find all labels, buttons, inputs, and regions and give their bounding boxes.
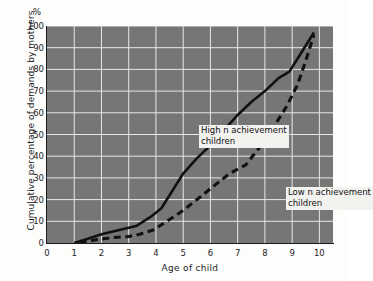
x-axis-line (46, 243, 334, 244)
y-tick-label: 40 (4, 151, 44, 161)
x-tick-label: 4 (144, 248, 168, 258)
x-tick-label: 8 (253, 248, 277, 258)
y-axis-tick-labels: 0102030405060708090100 (0, 0, 44, 281)
annotation-low-n-line1: Low n achievement (288, 187, 371, 197)
x-tick-label: 9 (280, 248, 304, 258)
x-tick-label: 10 (307, 248, 331, 258)
annotation-high-n-line1: High n achievement (201, 125, 287, 135)
annotation-high-n-line2: children (201, 136, 287, 147)
x-tick-label: 3 (117, 248, 141, 258)
y-tick-label: 80 (4, 64, 44, 74)
annotation-high-n-achievement: High n achievement children (199, 125, 289, 148)
y-tick-label: 70 (4, 86, 44, 96)
plot-area: High n achievement children Low n achiev… (47, 26, 333, 243)
y-tick-label: 100 (4, 21, 44, 31)
y-tick-label: 0 (4, 238, 44, 248)
y-tick-label: 30 (4, 173, 44, 183)
x-tick-label: 6 (198, 248, 222, 258)
y-tick-label: 20 (4, 195, 44, 205)
annotation-low-n-line2: children (288, 198, 371, 209)
y-tick-label: 10 (4, 216, 44, 226)
x-tick-label: 5 (171, 248, 195, 258)
x-axis-title: Age of child (47, 263, 333, 273)
y-tick-label: 50 (4, 130, 44, 140)
x-tick-label: 1 (62, 248, 86, 258)
y-tick-label: 90 (4, 43, 44, 53)
x-tick-label: 7 (226, 248, 250, 258)
x-tick-label: 0 (35, 248, 59, 258)
y-tick-label: 60 (4, 108, 44, 118)
annotation-low-n-achievement: Low n achievement children (286, 187, 373, 210)
plot-svg (47, 26, 333, 243)
x-tick-label: 2 (89, 248, 113, 258)
x-axis-tick-labels: 012345678910 (0, 248, 347, 262)
